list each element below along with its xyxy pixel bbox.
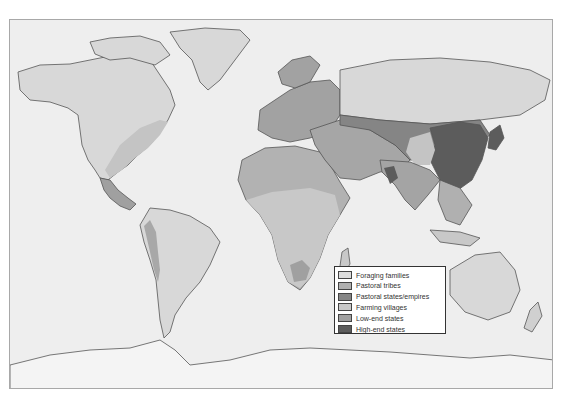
swatch-icon (338, 325, 352, 333)
region-north-america (18, 52, 175, 180)
region-antarctica (10, 340, 553, 389)
swatch-icon (338, 282, 352, 290)
legend-label: Pastoral tribes (356, 282, 401, 289)
region-mesoamerica (100, 178, 136, 210)
legend-label: Foraging families (356, 272, 409, 279)
swatch-icon (338, 293, 352, 301)
world-map (9, 19, 553, 389)
swatch-icon (338, 271, 352, 279)
region-australia (450, 252, 520, 320)
swatch-icon (338, 314, 352, 322)
legend-item-foraging: Foraging families (338, 270, 442, 280)
legend-item-pastoral-tribes: Pastoral tribes (338, 281, 442, 291)
legend-label: Pastoral states/empires (356, 293, 429, 300)
legend-item-farming-villages: Farming villages (338, 302, 442, 312)
legend-label: Low-end states (356, 315, 403, 322)
legend-label: Farming villages (356, 304, 407, 311)
legend-item-pastoral-states: Pastoral states/empires (338, 292, 442, 302)
swatch-icon (338, 303, 352, 311)
region-siberia (340, 58, 550, 124)
legend-item-high-end-states: High-end states (338, 324, 442, 334)
map-legend: Foraging families Pastoral tribes Pastor… (334, 266, 446, 334)
legend-item-low-end-states: Low-end states (338, 313, 442, 323)
legend-label: High-end states (356, 326, 405, 333)
region-greenland (170, 28, 250, 90)
map-canvas (10, 20, 553, 389)
